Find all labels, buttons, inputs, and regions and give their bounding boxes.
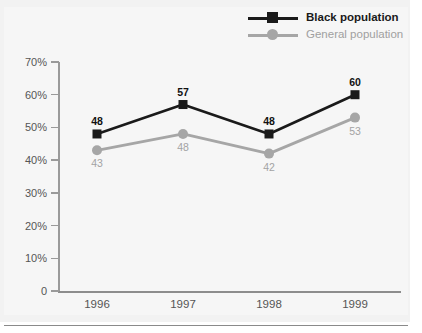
x-axis-tick-label: 1996: [62, 298, 132, 310]
y-axis-tick: [51, 127, 59, 129]
data-point-label: 60: [335, 76, 375, 88]
data-point-label: 48: [77, 115, 117, 127]
y-axis-tick: [51, 61, 59, 63]
y-axis-tick: [51, 290, 59, 292]
y-axis-tick: [51, 94, 59, 96]
data-point-label: 42: [249, 161, 289, 173]
y-axis-tick: [51, 225, 59, 227]
x-axis-tick-label: 1999: [320, 298, 390, 310]
bottom-divider-rule: [4, 325, 408, 326]
data-point-label: 43: [77, 157, 117, 169]
chart-figure: Black population General population 010%…: [0, 0, 422, 333]
data-point-label: 48: [249, 115, 289, 127]
chart-overlay-labels: 48574860434842531996199719981999: [0, 0, 422, 333]
y-axis-tick: [51, 159, 59, 161]
y-axis-tick: [51, 192, 59, 194]
data-point-label: 48: [163, 141, 203, 153]
x-axis-tick-label: 1998: [234, 298, 304, 310]
x-axis-tick-label: 1997: [148, 298, 218, 310]
data-point-label: 53: [335, 125, 375, 137]
y-axis-tick: [51, 258, 59, 260]
data-point-label: 57: [163, 86, 203, 98]
